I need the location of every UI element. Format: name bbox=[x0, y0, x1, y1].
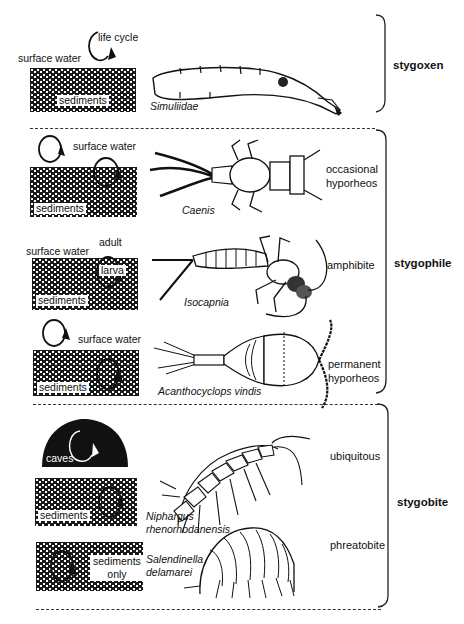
sediment-cycle-arrow-icon bbox=[96, 486, 136, 526]
surface-water-label: surface water bbox=[73, 140, 136, 152]
habitat-phreatobite: phreatobite bbox=[330, 538, 385, 552]
sediments-label: sediments bbox=[37, 382, 89, 393]
adult-label: adult bbox=[99, 236, 122, 248]
isocapnia-stonefly-illustration bbox=[148, 232, 348, 322]
taxon-acanthocyclops-vindis: Acanthocyclops vindis bbox=[158, 385, 261, 397]
sediments-label: sediments bbox=[34, 203, 86, 214]
life-cycle-arrow-icon bbox=[86, 30, 126, 70]
habitat-ubiquitous: ubiquitous bbox=[330, 449, 380, 463]
sediments-label: sediments bbox=[57, 95, 109, 106]
sediment-cycle-arrow-icon bbox=[92, 156, 132, 196]
cave-icon bbox=[40, 417, 130, 473]
sediment-cycle-arrow-icon bbox=[48, 548, 88, 588]
sediment-cycle-arrow-icon bbox=[94, 356, 134, 396]
sediments-label: sediments bbox=[38, 510, 90, 521]
habitat-permanent-hyporheos: permanent hyporheos bbox=[328, 357, 381, 385]
caves-label: caves bbox=[46, 452, 73, 464]
divider-3 bbox=[36, 609, 381, 610]
larva-label: larva bbox=[99, 265, 126, 276]
habitat-occasional-hyporheos: occasional hyporheos bbox=[326, 162, 378, 190]
surface-water-label: surface water bbox=[18, 52, 81, 64]
habitat-amphibite: amphibite bbox=[327, 258, 375, 272]
taxon-isocapnia: Isocapnia bbox=[184, 296, 229, 308]
taxon-simuliidae: Simuliidae bbox=[150, 100, 198, 112]
sediments-label: sediments bbox=[36, 295, 88, 306]
category-stygoxen: stygoxen bbox=[393, 59, 444, 71]
taxon-caenis: Caenis bbox=[182, 204, 215, 216]
salendinella-amphipod-illustration bbox=[190, 520, 310, 600]
taxon-salendinella-delamarei: Salendinella delamarei bbox=[146, 553, 203, 579]
caenis-nymph-illustration bbox=[140, 138, 330, 218]
surface-water-label: surface water bbox=[78, 333, 141, 345]
divider-1 bbox=[30, 128, 375, 129]
category-stygophile: stygophile bbox=[394, 257, 452, 269]
surface-water-label: surface water bbox=[26, 245, 89, 257]
sediments-only-label: sediments only bbox=[90, 555, 144, 581]
category-stygobite: stygobite bbox=[397, 496, 448, 508]
